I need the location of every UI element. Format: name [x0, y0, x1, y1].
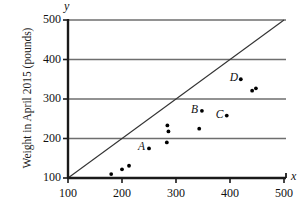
data-point: [225, 114, 229, 118]
gridlines: [68, 20, 286, 139]
data-point: [165, 124, 169, 128]
data-point: [254, 86, 258, 90]
scatter-plot: Weight in April 2015 (pounds) y x 100200…: [0, 0, 307, 217]
data-point: [250, 89, 254, 93]
data-point: [197, 127, 201, 131]
data-point: [109, 172, 113, 176]
y-tick-label: 300: [21, 91, 61, 106]
data-point-label-d: D: [230, 71, 238, 83]
y-tick-label: 500: [21, 12, 61, 27]
data-point: [120, 167, 124, 171]
data-point: [127, 164, 131, 168]
data-point-label-c: C: [216, 108, 224, 120]
x-tick-label: 100: [48, 186, 88, 201]
data-point: [200, 109, 204, 113]
data-point-label-b: B: [191, 103, 198, 115]
data-point: [147, 146, 151, 150]
data-points: [109, 77, 258, 176]
x-tick-label: 400: [210, 186, 250, 201]
y-tick-label: 200: [21, 131, 61, 146]
x-tick-label: 200: [102, 186, 142, 201]
x-tick-label: 300: [156, 186, 196, 201]
y-tick-label: 100: [21, 170, 61, 185]
y-tick-label: 400: [21, 52, 61, 67]
data-point: [239, 77, 243, 81]
data-point: [165, 141, 169, 145]
data-point: [167, 129, 171, 133]
x-tick-label: 500: [264, 186, 304, 201]
data-point-label-a: A: [138, 140, 145, 152]
